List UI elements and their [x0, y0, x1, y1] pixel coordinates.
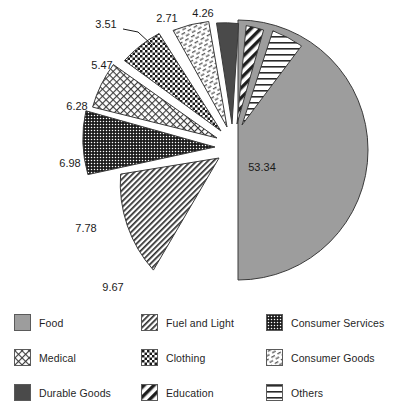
pie-chart-canvas: 53.34 9.67 7.78 6.98 6.28 5.47 3.51 2.71…	[0, 0, 395, 305]
legend-item-others[interactable]: Others	[266, 384, 384, 401]
legend-item-fuel-and-light[interactable]: Fuel and Light	[141, 314, 266, 331]
slice-label-clothing: 6.28	[66, 100, 87, 112]
legend-label-others: Others	[291, 387, 323, 399]
legend-label-medical: Medical	[39, 352, 76, 364]
legend-swatch-fuel-and-light-icon	[141, 314, 158, 331]
legend-swatch-durable-goods-icon	[14, 384, 31, 401]
legend-item-consumer-services[interactable]: Consumer Services	[266, 314, 384, 331]
legend-swatch-clothing-icon	[141, 349, 158, 366]
legend-swatch-others-icon	[266, 384, 283, 401]
legend-label-clothing: Clothing	[166, 352, 205, 364]
legend-item-consumer-goods[interactable]: Consumer Goods	[266, 349, 384, 366]
legend-label-fuel-and-light: Fuel and Light	[166, 317, 234, 329]
slice-label-others: 4.26	[192, 7, 213, 19]
chart-legend: Food Fuel and Light Consumer Services Me…	[14, 305, 384, 410]
legend-swatch-consumer-services-icon	[266, 314, 283, 331]
legend-item-medical[interactable]: Medical	[14, 349, 141, 366]
legend-item-food[interactable]: Food	[14, 314, 141, 331]
slice-label-education: 2.71	[156, 12, 177, 24]
legend-item-clothing[interactable]: Clothing	[141, 349, 266, 366]
slice-label-medical: 6.98	[59, 157, 80, 169]
legend-swatch-medical-icon	[14, 349, 31, 366]
legend-label-consumer-goods: Consumer Goods	[291, 352, 375, 364]
legend-label-consumer-services: Consumer Services	[291, 317, 384, 329]
slice-label-fuel-and-light: 9.67	[102, 281, 123, 293]
slice-label-consumer-goods: 5.47	[91, 59, 112, 71]
legend-swatch-consumer-goods-icon	[266, 349, 283, 366]
legend-label-education: Education	[166, 387, 214, 399]
pie-chart-figure: 53.34 9.67 7.78 6.98 6.28 5.47 3.51 2.71…	[0, 0, 395, 420]
slice-label-consumer-services: 7.78	[75, 222, 96, 234]
slice-label-food: 53.34	[248, 161, 276, 173]
pie-slice-fuel-and-light[interactable]	[120, 158, 219, 270]
legend-item-education[interactable]: Education	[141, 384, 266, 401]
slice-label-durable-goods: 3.51	[95, 18, 116, 30]
legend-swatch-food-icon	[14, 314, 31, 331]
legend-label-food: Food	[39, 317, 63, 329]
pie-slices	[83, 20, 368, 280]
legend-swatch-education-icon	[141, 384, 158, 401]
pie-slice-food[interactable]	[238, 20, 368, 280]
legend-label-durable-goods: Durable Goods	[39, 387, 111, 399]
legend-item-durable-goods[interactable]: Durable Goods	[14, 384, 141, 401]
